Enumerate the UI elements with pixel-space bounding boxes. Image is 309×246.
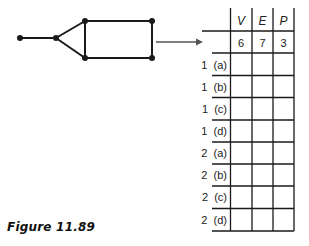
arrow-icon	[156, 39, 203, 46]
row-label: 2 (b)	[201, 169, 227, 181]
figure-canvas: V E P 6 7 3 1 (a) 1 (b) 1 (c) 1 (d) 2 (a…	[0, 0, 309, 246]
graph-edge	[56, 21, 85, 38]
figure-caption: Figure 11.89	[7, 220, 95, 234]
row-label: 2 (a)	[201, 147, 227, 159]
graph-vertex	[149, 18, 155, 24]
header-v: V	[237, 14, 246, 28]
value-p: 3	[280, 37, 286, 49]
row-label: 1 (d)	[201, 125, 227, 137]
row-label: 2 (c)	[202, 191, 227, 203]
row-label: 1 (c)	[202, 103, 227, 115]
value-v: 6	[238, 37, 244, 49]
graph-vertex	[17, 35, 23, 41]
value-e: 7	[259, 37, 265, 49]
row-label: 1 (a)	[201, 59, 227, 71]
graph-vertex	[82, 18, 88, 24]
row-label: 2 (d)	[201, 214, 227, 226]
graph-vertex	[82, 55, 88, 61]
graph-vertex	[149, 55, 155, 61]
header-p: P	[279, 14, 287, 28]
graph	[20, 21, 152, 58]
graph-vertex	[53, 35, 59, 41]
header-e: E	[258, 14, 267, 28]
row-label: 1 (b)	[201, 81, 227, 93]
graph-edge	[56, 38, 85, 58]
